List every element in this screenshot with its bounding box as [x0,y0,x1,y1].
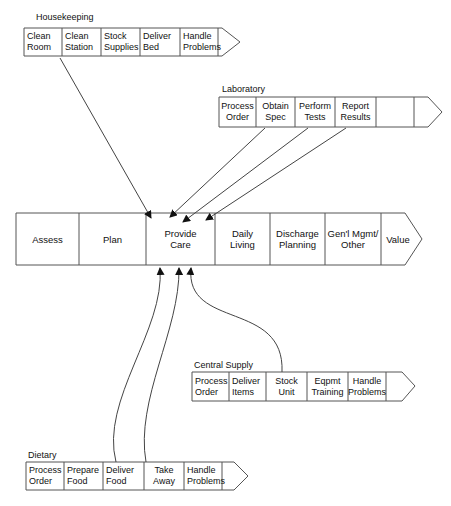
dietary-step: Handle Problems [184,462,222,490]
main-step-discharge-planning: Discharge Planning [270,213,325,265]
arrow-lab-obtain-spec [170,128,265,217]
dietary-step: Take Away [144,462,184,490]
arrow-lab-report-results [206,128,346,220]
laboratory-step: Report Results [335,97,376,127]
dietary-step: Deliver Food [103,462,144,490]
main-step-plan: Plan [79,213,146,265]
arrow-dietary-takeaway [144,268,179,462]
main-step-provide-care: Provide Care [146,213,215,265]
housekeeping-step: Handle Problems [180,28,218,56]
arrow-central-supply [191,268,282,372]
housekeeping-step: Clean Room [24,28,62,56]
housekeeping-step: Deliver Bed [140,28,180,56]
main-step-daily-living: Daily Living [215,213,270,265]
main-step-value: Value [381,213,415,265]
central-supply-step: Eqpmt Training [307,372,348,401]
laboratory-title: Laboratory [222,84,265,94]
housekeeping-step: Stock Supplies [101,28,140,56]
arrow-lab-perform-tests [183,128,308,222]
housekeeping-step: Clean Station [62,28,101,56]
main-step-assess: Assess [16,213,79,265]
arrow-dietary-deliver [113,268,160,462]
central-supply-step: Deliver Items [229,372,266,401]
arrow-housekeeping [60,58,151,218]
central-supply-step: Process Order [192,372,229,401]
central-supply-step: Stock Unit [266,372,307,401]
housekeeping-title: Housekeeping [36,12,94,22]
dietary-step: Prepare Food [64,462,103,490]
laboratory-step: Perform Tests [295,97,335,127]
central-supply-title: Central Supply [194,360,253,370]
laboratory-step [376,97,414,127]
laboratory-step: Process Order [219,97,256,127]
central-supply-step: Handle Problems [348,372,386,401]
main-step-genl-mgmt: Gen'l Mgmt/ Other [325,213,381,265]
laboratory-step: Obtain Spec [256,97,295,127]
dietary-step: Process Order [26,462,64,490]
dietary-title: Dietary [28,450,57,460]
